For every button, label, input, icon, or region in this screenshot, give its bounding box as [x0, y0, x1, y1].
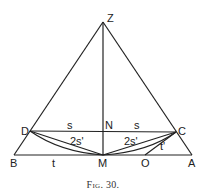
label-N: N: [105, 119, 113, 131]
label-B: B: [10, 157, 17, 169]
label-A: A: [188, 157, 196, 169]
label-s-left: s: [67, 119, 73, 131]
line-DC: [30, 131, 176, 132]
label-t: t: [52, 157, 55, 169]
chord-DM: [30, 131, 103, 155]
geometry-diagram: Z D C N B M O A s s 2s' 2s' t t' Fig. 30…: [0, 0, 204, 194]
label-t-prime: t': [160, 140, 165, 152]
label-Z: Z: [107, 12, 114, 24]
label-2s-left: 2s': [70, 135, 84, 147]
label-M: M: [98, 157, 107, 169]
label-2s-right: 2s': [124, 135, 138, 147]
label-s-right: s: [134, 119, 140, 131]
label-O: O: [141, 157, 150, 169]
figure-caption: Fig. 30.: [87, 179, 120, 190]
label-D: D: [21, 125, 29, 137]
label-C: C: [178, 125, 186, 137]
